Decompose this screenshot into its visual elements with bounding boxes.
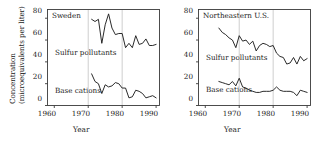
dataline-base-cations-northeastern-us [219,78,307,95]
dataline-sulfur-pollutants-northeastern-us [219,28,307,64]
plot-border-sweden [48,10,160,106]
chart-panel-northeastern-us: 80 60 40 20 0 1960 1970 1980 1990 Year N… [166,0,332,144]
chart-canvas-northeastern-us [166,0,332,144]
figure-root: Concentration (microequivalents per lite… [0,0,332,144]
chart-canvas-sweden [0,0,166,144]
chart-panel-sweden: Concentration (microequivalents per lite… [0,0,166,144]
dataline-base-cations-sweden [92,74,156,98]
dataline-sulfur-pollutants-sweden [92,14,156,48]
